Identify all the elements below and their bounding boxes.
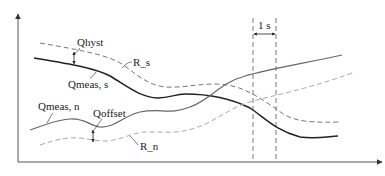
qmeas-s-curve	[34, 58, 338, 138]
r-n-annotation: R_n	[130, 136, 159, 152]
interval-guides: 1 s	[253, 18, 276, 162]
qoffset-annotation: Qoffset	[93, 107, 126, 142]
r-s-annotation: R_s	[122, 56, 150, 68]
qmeas-s-annotation: Qmeas, s	[68, 72, 108, 90]
qmeas-n-leader	[47, 113, 53, 123]
r-s-label: R_s	[133, 56, 150, 68]
r-n-leader	[130, 136, 138, 145]
interval-label: 1 s	[258, 19, 271, 31]
qoffset-label: Qoffset	[93, 107, 126, 119]
handover-diagram: 1 s Qhyst R_s Qmeas, s Qmeas, n	[0, 0, 385, 176]
r-n-label: R_n	[140, 140, 159, 152]
qhyst-annotation: Qhyst	[74, 36, 103, 64]
qhyst-label: Qhyst	[77, 36, 103, 48]
qmeas-n-label: Qmeas, n	[38, 100, 80, 112]
qoffset-leader	[94, 119, 102, 130]
qmeas-s-label: Qmeas, s	[68, 78, 108, 90]
